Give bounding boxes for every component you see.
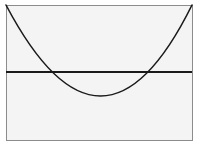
figure-container bbox=[0, 0, 199, 147]
geometry-diagram-svg bbox=[0, 0, 199, 147]
